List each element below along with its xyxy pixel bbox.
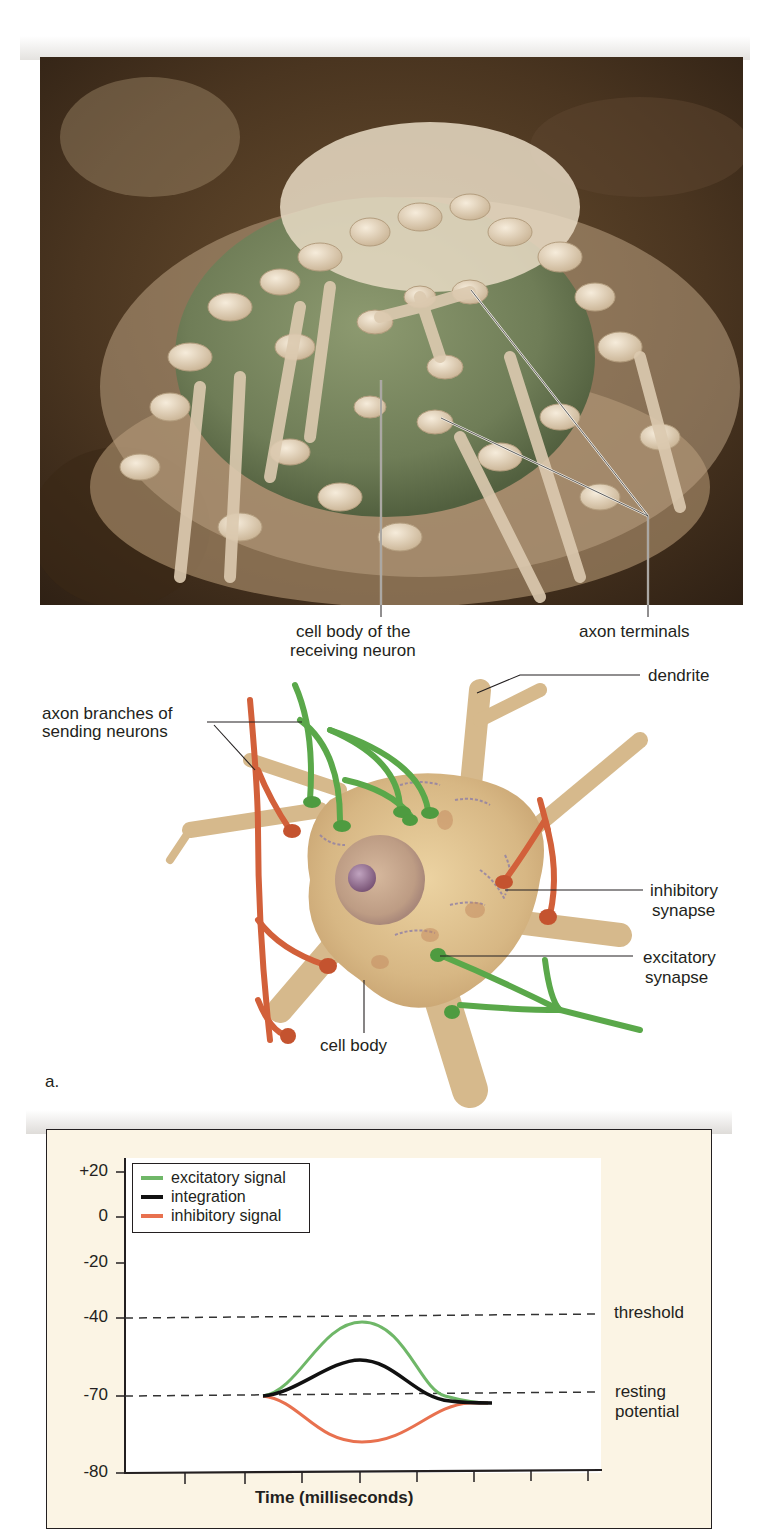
legend-item-excitatory: excitatory signal bbox=[141, 1168, 309, 1187]
ytick-label: 0 bbox=[52, 1206, 108, 1226]
legend-swatch-green bbox=[141, 1176, 163, 1180]
label-excitatory-synapse-2: synapse bbox=[645, 968, 708, 987]
legend-swatch-black bbox=[141, 1195, 163, 1199]
label-excitatory-synapse-1: excitatory bbox=[643, 948, 716, 967]
legend-label: inhibitory signal bbox=[171, 1207, 281, 1225]
ytick-label: -20 bbox=[52, 1252, 108, 1272]
legend-label: excitatory signal bbox=[171, 1169, 286, 1187]
chart-legend: excitatory signal integration inhibitory… bbox=[132, 1163, 310, 1233]
ytick-label: -40 bbox=[52, 1307, 108, 1327]
micrograph-image bbox=[40, 57, 743, 605]
sem-micrograph bbox=[40, 57, 743, 605]
legend-item-integration: integration bbox=[141, 1187, 309, 1206]
label-resting-2: potential bbox=[615, 1402, 679, 1421]
label-axon-branches-1: axon branches of bbox=[42, 704, 172, 723]
label-axon-terminals: axon terminals bbox=[579, 622, 690, 641]
label-axon-branches-2: sending neurons bbox=[42, 722, 168, 741]
label-inhibitory-synapse-1: inhibitory bbox=[650, 881, 718, 900]
ytick-label: -70 bbox=[52, 1385, 108, 1405]
panel-label-a: a. bbox=[45, 1072, 59, 1091]
label-cell-body: cell body bbox=[320, 1036, 387, 1055]
legend-item-inhibitory: inhibitory signal bbox=[141, 1206, 309, 1225]
label-threshold: threshold bbox=[614, 1303, 684, 1322]
label-dendrite: dendrite bbox=[648, 666, 709, 685]
x-axis-label: Time (milliseconds) bbox=[255, 1488, 413, 1508]
ytick-label: -80 bbox=[52, 1462, 108, 1482]
legend-label: integration bbox=[171, 1188, 246, 1206]
label-inhibitory-synapse-2: synapse bbox=[652, 901, 715, 920]
ytick-label: +20 bbox=[52, 1161, 108, 1181]
legend-swatch-orange bbox=[141, 1214, 163, 1218]
photo-leader-lines bbox=[0, 605, 761, 619]
label-resting-1: resting bbox=[615, 1382, 666, 1401]
label-cell-body-receiving-1: cell body of the bbox=[296, 622, 410, 641]
